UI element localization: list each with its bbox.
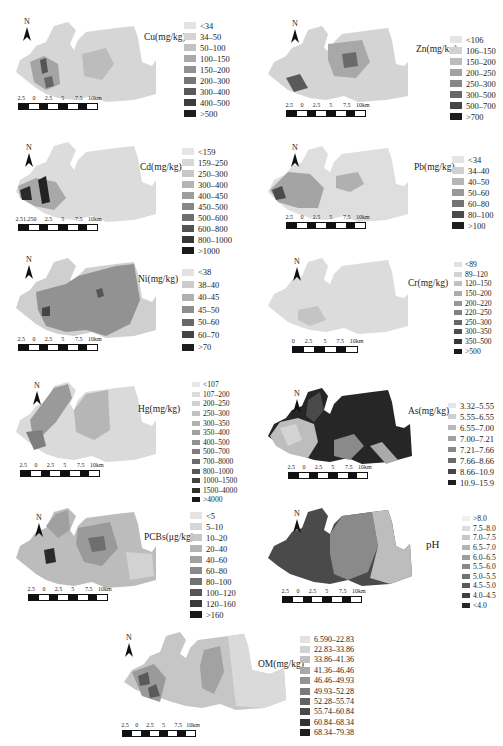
map-ph <box>258 496 418 596</box>
panel-title: OM(mg/kg) <box>258 659 304 669</box>
legend-item: 120–160 <box>190 598 236 609</box>
legend-item: 33.86–41.36 <box>300 655 354 665</box>
legend-item: <106 <box>450 34 496 45</box>
legend-item: >500 <box>184 108 230 119</box>
panel-title: Pb(mg/kg) <box>414 162 455 172</box>
scale-bar: 2.5 0 2.5 5 7.5 10km <box>18 336 98 351</box>
scale-bar: 2.5 0 2.5 5 7.5 10km <box>286 102 366 117</box>
legend-item: 22.83–33.86 <box>300 644 354 654</box>
map-cr <box>258 240 408 340</box>
legend-item: >160 <box>190 609 236 620</box>
legend-item: 250–300 <box>454 318 492 328</box>
north-arrow: N <box>288 144 302 167</box>
legend-item: 350–500 <box>454 337 492 347</box>
legend-item: 400–500 <box>192 438 237 448</box>
legend-item: <34 <box>184 20 230 31</box>
map-pb <box>258 124 408 224</box>
legend-item: >500 <box>454 346 492 356</box>
legend: 6.590–22.83 22.83–33.86 33.86–41.36 41.3… <box>300 634 354 738</box>
legend-item: 34–50 <box>184 31 230 42</box>
legend-item: 300–400 <box>184 86 230 97</box>
legend-item: 700–8000 <box>192 457 237 467</box>
legend-item: 89–120 <box>454 270 492 280</box>
legend-item: <159 <box>182 146 232 157</box>
legend-item: 106–150 <box>450 45 496 56</box>
north-arrow-icon <box>290 29 300 43</box>
legend-item: 60–70 <box>182 329 219 342</box>
north-arrow-icon <box>24 153 34 167</box>
legend-item: 4.5–5.0 <box>462 581 496 591</box>
panel-ni: N Ni(mg/kg) 2.5 0 2.5 5 7.5 10km <38 38–… <box>6 240 251 358</box>
legend-item: 500–700 <box>450 100 496 111</box>
legend-item: >700 <box>450 111 496 122</box>
legend-item: 7.0–7.5 <box>462 533 496 543</box>
legend-item: 7.21–7.66 <box>448 444 494 455</box>
legend-item: 20–40 <box>190 543 236 554</box>
legend-item: 10.9–15.9 <box>448 477 494 488</box>
legend-item: <107 <box>192 380 237 390</box>
north-arrow: N <box>288 20 302 43</box>
north-arrow: N <box>122 634 136 657</box>
panel-title: PCBs(μg/kg) <box>144 532 194 542</box>
panel-ph: N pH 2.5 0 2.5 5 7.5 10km >8.0 7.5–8.0 7… <box>258 496 503 614</box>
legend-item: 350–400 <box>192 428 237 438</box>
panel-cr: N Cr(mg/kg) 0 2.5 5 7.5 10km <89 89–120 … <box>258 240 503 358</box>
legend-item: 600–800 <box>182 223 232 234</box>
map-cd <box>6 124 156 224</box>
scale-bar: 2.5 0 2.5 5 7.5 10km <box>288 464 368 479</box>
legend: <34 34–40 40–50 50–60 60–80 80–100 >100 <box>452 154 494 231</box>
north-arrow: N <box>32 514 46 537</box>
panel-zn: N Zn(mg/kg) 2.5 0 2.5 5 7.5 10km <106 10… <box>258 4 503 122</box>
legend-item: 41.36–46.46 <box>300 665 354 675</box>
legend-item: 250–300 <box>450 78 496 89</box>
scale-bar: 2.5 0 2.5 5 7.5 10km <box>282 588 362 603</box>
map-hg <box>6 370 156 470</box>
map-om <box>120 622 290 722</box>
legend-item: 107–200 <box>192 390 237 400</box>
legend-item: 250–300 <box>192 409 237 419</box>
panel-om: N OM(mg/kg) 2.5 0 2.5 5 7.5 10km 6.590–2… <box>120 622 380 740</box>
legend-item: 46.46–49.93 <box>300 676 354 686</box>
north-arrow: N <box>290 258 304 281</box>
north-arrow-icon <box>22 27 32 41</box>
legend-item: 5.55–6.55 <box>448 411 494 422</box>
legend-item: 80–100 <box>190 576 236 587</box>
legend-item: <5 <box>190 510 236 521</box>
legend-item: 40–45 <box>182 291 219 304</box>
legend: <106 106–150 150–200 200–250 250–300 300… <box>450 34 496 122</box>
legend-item: 50–100 <box>184 42 230 53</box>
legend-item: 52.28–55.74 <box>300 696 354 706</box>
legend-item: 450–500 <box>182 201 232 212</box>
legend-item: 200–250 <box>192 399 237 409</box>
legend-item: 1500–4000 <box>192 486 237 496</box>
legend-item: 6.55–7.00 <box>448 422 494 433</box>
legend-item: 6.5–7.0 <box>462 543 496 553</box>
legend-item: 250–300 <box>182 168 232 179</box>
map-zn <box>258 4 408 104</box>
legend-item: 45–50 <box>182 304 219 317</box>
legend-item: 6.0–6.5 <box>462 552 496 562</box>
legend-item: 200–220 <box>454 298 492 308</box>
north-arrow: N <box>290 510 304 533</box>
legend-item: 300–400 <box>182 179 232 190</box>
legend-item: >100 <box>452 220 494 231</box>
legend-item: 300–500 <box>450 89 496 100</box>
panel-title: Cu(mg/kg) <box>144 32 186 42</box>
legend-item: 3.32–5.55 <box>448 400 494 411</box>
north-arrow-icon <box>290 153 300 167</box>
legend-item: 60.84–68.34 <box>300 717 354 727</box>
legend-item: 7.5–8.0 <box>462 524 496 534</box>
north-arrow-icon <box>24 265 34 279</box>
legend-item: 5.5–6.0 <box>462 562 496 572</box>
map-as <box>258 370 418 470</box>
legend-item: 120–150 <box>454 279 492 289</box>
legend-item: 300–350 <box>192 418 237 428</box>
legend-item: 800–1000 <box>192 466 237 476</box>
north-arrow: N <box>22 144 36 167</box>
scale-bar: 2.5 0 2.5 5 7.5 10km <box>286 214 366 229</box>
legend-item: 150–200 <box>184 64 230 75</box>
scale-bar: 2.5 0 2.5 5 7.5 10km <box>122 722 196 737</box>
legend-item: 50–60 <box>452 187 494 198</box>
legend-item: 5–10 <box>190 521 236 532</box>
legend-item: 500–600 <box>182 212 232 223</box>
